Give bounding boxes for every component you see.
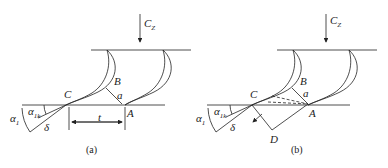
panel-b-drawing [207,14,377,132]
panel-a-drawing [22,14,191,132]
point-a-label-b: A [309,108,316,119]
caption-a: (a) [86,145,97,155]
flow-label-b: CZ [330,15,341,29]
point-a-label-a: A [127,108,134,119]
throat-label-b: a [303,88,309,99]
point-b-label-b: B [300,76,307,87]
throat-label-a: a [117,90,123,101]
point-b-label-a: B [114,76,121,87]
alpha1-label-a: α1 [10,113,19,127]
point-c-label-b: C [250,89,257,100]
alpha1k-label-b: α1k [214,106,226,120]
delta-label-a: δ [44,122,49,133]
pitch-label: t [98,112,101,123]
caption-b: (b) [291,145,303,155]
flow-label-a: CZ [144,18,155,32]
delta-label-b: δ [230,122,235,133]
point-d-label-b: D [270,134,278,145]
alpha1k-label-a: α1k [28,106,40,120]
alpha1-label-b: α1 [196,113,205,127]
point-c-label-a: C [64,89,71,100]
